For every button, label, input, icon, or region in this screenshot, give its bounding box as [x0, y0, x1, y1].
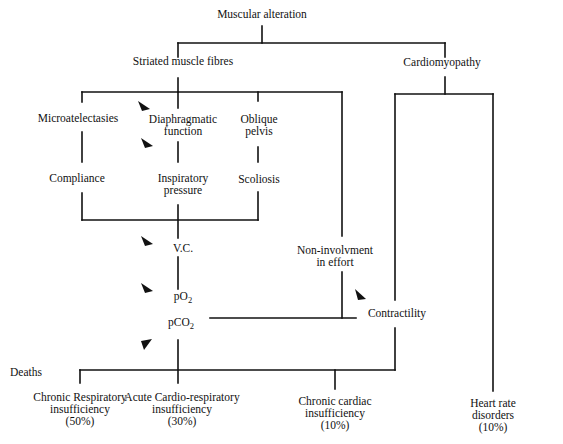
node-striated-muscle-fibres: Striated muscle fibres	[133, 55, 233, 67]
arrow-icon	[141, 138, 153, 148]
node-diaphragmatic-function: Diaphragmatic function	[149, 113, 217, 137]
node-oblique-pelvis: Oblique pelvis	[240, 113, 277, 137]
outcome-chronic-respiratory-insufficiency: Chronic Respiratory insufficiency (50%)	[33, 391, 127, 427]
node-cardiomyopathy: Cardiomyopathy	[403, 56, 480, 68]
node-microatelectasies: Microatelectasies	[38, 112, 118, 124]
outcome-chronic-cardiac-insufficiency: Chronic cardiac insufficiency (10%)	[298, 395, 371, 431]
arrow-icon	[141, 283, 153, 293]
arrow-icon	[141, 339, 152, 350]
outcome-acute-cardio-respiratory-insufficiency: Acute Cardio-respiratory insufficiency (…	[124, 391, 239, 427]
arrow-icon	[355, 289, 366, 300]
node-po2: pO2	[174, 290, 192, 302]
muscular-alteration-diagram: Muscular alteration Striated muscle fibr…	[0, 0, 563, 444]
node-pco2: pCO2	[168, 316, 194, 328]
node-inspiratory-pressure: Inspiratory pressure	[158, 172, 208, 196]
arrow-icon	[138, 101, 150, 111]
node-non-involvement-in-effort: Non-involvment in effort	[297, 244, 373, 268]
node-muscular-alteration: Muscular alteration	[217, 8, 307, 20]
node-contractility: Contractility	[368, 307, 426, 319]
arrow-icon	[141, 236, 153, 246]
deaths-label: Deaths	[10, 366, 42, 378]
outcome-heart-rate-disorders: Heart rate disorders (10%)	[470, 397, 516, 433]
node-scoliosis: Scoliosis	[238, 173, 280, 185]
node-compliance: Compliance	[49, 172, 105, 184]
node-vital-capacity: V.C.	[173, 242, 193, 254]
